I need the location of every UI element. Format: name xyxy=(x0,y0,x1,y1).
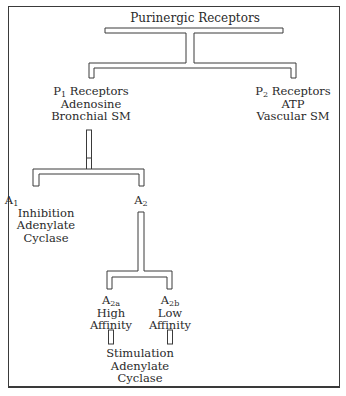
node-a2: A2 xyxy=(134,194,147,207)
a2b-stem-connector xyxy=(168,330,173,344)
a2-heading: A2 xyxy=(134,194,147,207)
p2-tissue: Vascular SM xyxy=(255,110,331,123)
p2-name: Receptors xyxy=(268,84,331,98)
p1-bracket-connector xyxy=(33,158,144,186)
p1-symbol: P xyxy=(53,84,61,98)
node-a2a: A2a High Affinity xyxy=(90,294,132,332)
node-p1-receptors: P1 Receptors Adenosine Bronchial SM xyxy=(51,85,131,123)
a2b-affinity-line-2: Affinity xyxy=(149,319,191,332)
a2-bracket-connector xyxy=(107,212,172,289)
p1-stem-connector xyxy=(87,130,92,158)
a1-effect-line-2: Adenylate xyxy=(17,219,75,232)
title-purinergic-receptors: Purinergic Receptors xyxy=(130,12,260,25)
effect-line-1: Stimulation xyxy=(106,347,174,360)
p1-heading: P1 Receptors xyxy=(51,85,131,98)
effect-line-3: Cyclase xyxy=(106,372,174,385)
a2a-affinity-line-2: Affinity xyxy=(90,319,132,332)
a1-effect-line-3: Cyclase xyxy=(17,232,75,245)
p1-tissue: Bronchial SM xyxy=(51,110,131,123)
a1-heading: A1 xyxy=(5,194,75,207)
title-text: Purinergic Receptors xyxy=(130,12,260,25)
node-a2b: A2b Low Affinity xyxy=(149,294,191,332)
a2b-symbol: A xyxy=(161,293,169,307)
top-bracket-connector xyxy=(89,28,296,78)
a2-subscript: 2 xyxy=(143,199,148,208)
p2-symbol: P xyxy=(255,84,263,98)
a2a-stem-connector xyxy=(109,330,114,344)
a2a-heading: A2a xyxy=(90,294,132,307)
node-a1: A1 Inhibition Adenylate Cyclase xyxy=(17,194,75,244)
p1-name: Receptors xyxy=(66,84,129,98)
node-p2-receptors: P2 Receptors ATP Vascular SM xyxy=(255,85,331,123)
a2b-heading: A2b xyxy=(149,294,191,307)
p2-heading: P2 Receptors xyxy=(255,85,331,98)
node-stimulation-effect: Stimulation Adenylate Cyclase xyxy=(106,347,174,385)
